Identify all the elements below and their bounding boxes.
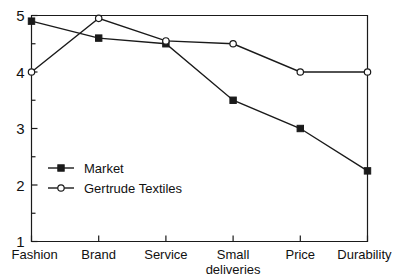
line-chart: 12345 FashionBrandServiceSmalldeliveries… [0, 0, 396, 279]
data-point-marker-circle [230, 41, 236, 47]
data-series [28, 18, 370, 174]
chart-legend: MarketGertrude Textiles [48, 161, 183, 196]
x-axis-category-label: Brand [81, 247, 116, 262]
data-point-marker-square [96, 35, 102, 41]
legend-entry: Market [48, 161, 124, 176]
x-axis-category-label: Price [285, 247, 315, 262]
data-point-marker-square [364, 168, 370, 174]
data-point-marker-circle [163, 38, 169, 44]
series-polyline [32, 21, 368, 171]
series-polyline [32, 18, 368, 72]
legend-label: Gertrude Textiles [84, 181, 183, 196]
y-axis-labels: 12345 [16, 7, 24, 250]
data-point-marker-circle [58, 185, 64, 191]
data-point-marker-circle [297, 69, 303, 75]
chart-canvas: 12345 FashionBrandServiceSmalldeliveries… [0, 0, 396, 279]
data-point-marker-square [230, 97, 236, 103]
data-series-layer [28, 15, 370, 174]
x-axis-category-labels: FashionBrandServiceSmalldeliveriesPriceD… [12, 247, 392, 277]
x-axis-category-label: Smalldeliveries [206, 247, 261, 277]
y-axis-tick-label: 3 [16, 120, 24, 137]
data-point-marker-square [58, 165, 64, 171]
y-axis-tick-label: 5 [16, 7, 24, 24]
x-axis-category-label: Durability [337, 247, 392, 262]
y-axis-tick-label: 2 [16, 177, 24, 194]
x-axis-category-label: Fashion [12, 247, 58, 262]
x-axis-ticks [32, 236, 368, 242]
data-point-marker-square [28, 18, 34, 24]
data-point-marker-square [297, 125, 303, 131]
data-point-marker-circle [364, 69, 370, 75]
y-axis-ticks [32, 16, 38, 242]
legend-entry: Gertrude Textiles [48, 181, 183, 196]
data-series [28, 15, 370, 75]
y-axis-tick-label: 4 [16, 64, 24, 81]
legend-label: Market [84, 161, 124, 176]
data-point-marker-circle [28, 69, 34, 75]
plot-frame [32, 16, 368, 242]
x-axis-category-label: Service [144, 247, 187, 262]
data-point-marker-circle [96, 15, 102, 21]
